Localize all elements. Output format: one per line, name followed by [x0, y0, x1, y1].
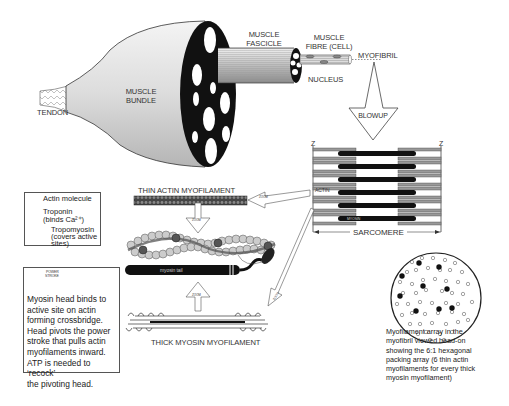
label-muscle-fibre-1: MUSCLE: [303, 33, 355, 42]
array-caption: Myofilament array in the myofibril viewe…: [386, 327, 475, 383]
label-myosin: MYOSIN: [347, 217, 360, 221]
muscle-fascicle-shape: [218, 48, 302, 83]
label-zoom-2: ZOOM: [192, 219, 201, 222]
label-muscle-fibre-2: FIBRE (CELL): [303, 42, 355, 51]
legend-box: Actin molecule Troponin (binds Ca²⁺) Tro…: [24, 192, 101, 246]
crossbridge-line-6: myofilaments inward.: [27, 347, 119, 358]
label-zoom-1: ZOOM: [259, 196, 268, 199]
label-sarcomere: SARCOMERE: [350, 228, 407, 237]
label-myofibril: MYOFIBRIL: [358, 51, 398, 60]
label-actin: ACTIN: [315, 187, 330, 193]
legend-tropomyosin-sub: (covers active sites): [51, 233, 101, 247]
crossbridge-box: POWER STROKE Myosin head binds to active…: [23, 267, 120, 373]
array-caption-line-1: Myofilament array in the: [386, 327, 475, 336]
array-caption-line-2: myofibril viewed head-on: [386, 336, 475, 345]
array-caption-line-3: showing the 6:1 hexagonal: [386, 346, 475, 355]
crossbridge-line-2: active site on actin: [27, 305, 119, 316]
zoom-arrow-actin[interactable]: [248, 190, 310, 208]
label-thin-actin-myofilament: THIN ACTIN MYOFILAMENT: [138, 186, 235, 195]
label-muscle-fascicle-2: FASCICLE: [242, 39, 286, 48]
crossbridge-line-4: Head pivots the power: [27, 326, 119, 337]
label-muscle-fascicle-1: MUSCLE: [242, 30, 286, 39]
crossbridge-line-1: Myosin head binds to: [27, 294, 119, 305]
label-nucleus: NUCLEUS: [308, 75, 343, 84]
label-blowup: BLOWUP: [355, 111, 391, 120]
sarcomere-shape: [313, 146, 441, 234]
array-caption-line-4: packing array (6 thin actin: [386, 355, 475, 364]
label-zoom-3: ZOOM: [192, 294, 201, 297]
label-muscle-bundle-2: BUNDLE: [121, 96, 161, 105]
array-caption-line-5: myofilaments for every thick: [386, 364, 475, 373]
label-thick-myosin-myofilament: THICK MYOSIN MYOFILAMENT: [151, 338, 260, 347]
label-muscle-bundle-1: MUSCLE: [121, 87, 161, 96]
label-z-left: Z: [311, 139, 315, 148]
label-z-right: Z: [439, 139, 443, 148]
crossbridge-line-8: the pivoting head.: [27, 379, 119, 390]
label-tendon: TENDON: [37, 108, 68, 117]
label-power-stroke-2: STROKE: [45, 274, 59, 278]
blowup-arrow[interactable]: [349, 62, 398, 140]
crossbridge-line-7: ATP is needed to ‘recock’: [27, 358, 119, 379]
crossbridge-line-3: forming crossbridge.: [27, 315, 119, 326]
array-caption-line-6: myosin myofilament): [386, 373, 475, 382]
label-myosin-tail: myosin tail: [160, 267, 183, 273]
crossbridge-line-5: stroke that pulls actin: [27, 336, 119, 347]
thin-actin-bar: [134, 196, 247, 205]
legend-actin-label: Actin molecule: [43, 194, 92, 203]
crossbridge-description: Myosin head binds to active site on acti…: [27, 294, 119, 389]
legend-troponin-sub: (binds Ca²⁺): [43, 215, 84, 224]
thick-myosin-filament: [126, 313, 268, 331]
